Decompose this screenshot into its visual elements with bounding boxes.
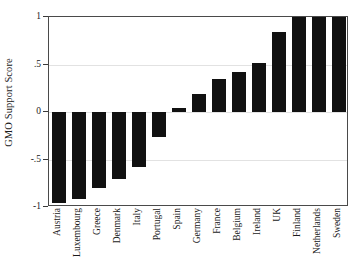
x-axis-category-label-text: Greece [93, 208, 103, 235]
y-axis-tick-label: 0 [36, 106, 41, 116]
y-axis-tick-mark [43, 16, 48, 17]
bar [52, 112, 66, 203]
x-axis-category-label: Portugal [148, 208, 168, 276]
y-axis-tick-label: -1 [33, 201, 41, 211]
x-axis-category-label: Sweden [328, 208, 348, 276]
x-axis-category-label-text: UK [273, 208, 283, 222]
x-axis-category-label-text: Germany [193, 208, 203, 243]
y-axis-tick-label: .5 [34, 59, 41, 69]
x-axis-category-label: UK [268, 208, 288, 276]
bar [72, 112, 86, 199]
bar [192, 94, 206, 112]
bar-series [49, 17, 347, 205]
x-axis-category-label-text: Luxembourg [73, 208, 83, 257]
bar [272, 32, 286, 112]
x-axis-category-label: Austria [48, 208, 68, 276]
x-axis-category-label-text: Spain [173, 208, 183, 230]
y-axis-title: GMO Support Score [0, 0, 16, 205]
bar [112, 112, 126, 179]
x-axis-category-label-text: Italy [133, 208, 143, 225]
bar [212, 79, 226, 112]
x-axis-category-label-text: Denmark [113, 208, 123, 243]
x-axis-category-label-text: Portugal [153, 208, 163, 240]
x-axis-category-label-text: Finland [293, 208, 303, 237]
x-axis-category-label: Italy [128, 208, 148, 276]
bar [292, 17, 306, 112]
plot-area [48, 16, 348, 206]
y-axis-tick-labels: 1.50-.5-1 [16, 0, 43, 220]
y-axis-tick-mark [43, 64, 48, 65]
bar [92, 112, 106, 188]
x-axis-category-labels: AustriaLuxembourgGreeceDenmarkItalyPortu… [48, 207, 348, 277]
x-axis-category-label: Greece [88, 208, 108, 276]
x-axis-category-label: Germany [188, 208, 208, 276]
x-axis-category-label: Spain [168, 208, 188, 276]
x-axis-category-label: Finland [288, 208, 308, 276]
bar [132, 112, 146, 167]
y-axis-title-text: GMO Support Score [3, 58, 14, 147]
x-axis-category-label: France [208, 208, 228, 276]
x-axis-category-label-text: Ireland [253, 208, 263, 235]
y-axis-tick-label: -.5 [31, 154, 41, 164]
bar [252, 63, 266, 112]
bar [152, 112, 166, 137]
x-axis-category-label-text: Sweden [333, 208, 343, 238]
x-axis-category-label-text: Netherlands [313, 208, 323, 254]
y-axis-tick-mark [43, 111, 48, 112]
chart-figure: GMO Support Score 1.50-.5-1 AustriaLuxem… [0, 0, 355, 277]
x-axis-category-label-text: France [213, 208, 223, 234]
y-axis-tick-label: 1 [36, 11, 41, 21]
y-axis-tick-mark [43, 159, 48, 160]
bar [232, 72, 246, 112]
bar [172, 108, 186, 112]
x-axis-category-label: Belgium [228, 208, 248, 276]
x-axis-category-label-text: Austria [53, 208, 63, 236]
x-axis-category-label: Denmark [108, 208, 128, 276]
y-axis-tick-mark [43, 206, 48, 207]
bar [332, 17, 346, 112]
bar [312, 17, 326, 112]
x-axis-category-label: Luxembourg [68, 208, 88, 276]
x-axis-category-label-text: Belgium [233, 208, 243, 241]
x-axis-category-label: Netherlands [308, 208, 328, 276]
x-axis-category-label: Ireland [248, 208, 268, 276]
